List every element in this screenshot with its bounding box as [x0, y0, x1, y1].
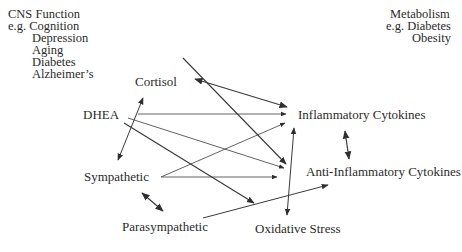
edge-sympathetic-parasympathetic	[142, 193, 163, 211]
edge-parasympathetic-anti-inflammatory	[203, 185, 328, 218]
edge-sympathetic-inflammatory	[161, 123, 285, 177]
node-oxidative-stress: Oxidative Stress	[255, 222, 341, 235]
metabolism-prefix: e.g.	[386, 19, 404, 33]
node-sympathetic: Sympathetic	[84, 170, 149, 183]
edge-dhea-anti-inflammatory	[128, 118, 284, 168]
edge-dhea-oxidative	[124, 123, 254, 203]
cns-prefix: e.g.	[8, 19, 26, 33]
metabolism-item: Obesity	[386, 32, 451, 44]
edge-inflammatory-anti-inflammatory	[345, 131, 349, 159]
node-parasympathetic: Parasympathetic	[122, 220, 208, 233]
node-anti-inflammatory-cytokines: Anti-Inflammatory Cytokines	[306, 165, 461, 178]
cns-function-box: CNS Function e.g. Cognition Depression A…	[8, 8, 94, 80]
metabolism-box: Metabolism e.g. Diabetes Obesity	[386, 8, 451, 44]
edge-cortisol-inflammatory	[195, 79, 287, 107]
edge-cortisol-sympathetic	[118, 98, 143, 160]
edge-inflammatory-oxidative	[287, 128, 294, 215]
edge-cortisol-anti-inflammatory	[183, 58, 286, 164]
cns-item: Alzheimer’s	[8, 68, 94, 80]
node-dhea: DHEA	[83, 108, 119, 121]
node-inflammatory-cytokines: Inflammatory Cytokines	[298, 108, 425, 121]
node-cortisol: Cortisol	[135, 75, 177, 88]
diagram-canvas: CNS Function e.g. Cognition Depression A…	[0, 0, 462, 252]
